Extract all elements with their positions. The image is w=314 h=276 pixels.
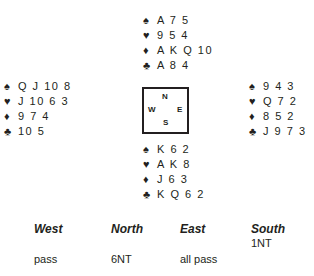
south-diamonds: ♦J 6 3 [143,172,205,187]
heart-icon: ♥ [249,94,263,109]
south-spades: ♠K 6 2 [143,142,205,157]
auction-bid-north-2: 6NT [111,253,132,265]
south-hand: ♠K 6 2 ♥A K 8 ♦J 6 3 ♣K Q 6 2 [143,142,205,202]
north-hearts: ♥9 5 4 [143,28,213,43]
east-hand: ♠9 4 3 ♥Q 7 2 ♦8 5 2 ♣J 9 7 3 [249,79,307,139]
spade-icon: ♠ [143,142,157,157]
south-clubs: ♣K Q 6 2 [143,187,205,202]
compass-west: W [148,106,156,114]
spade-icon: ♠ [4,79,18,94]
spade-icon: ♠ [143,13,157,28]
north-diamonds: ♦A K Q 10 [143,43,213,58]
diamond-icon: ♦ [4,109,18,124]
heart-icon: ♥ [143,28,157,43]
club-icon: ♣ [143,187,157,202]
west-clubs: ♣10 5 [4,124,72,139]
auction-bid-west-2: pass [34,253,57,265]
club-icon: ♣ [4,124,18,139]
diamond-icon: ♦ [249,109,263,124]
south-hearts: ♥A K 8 [143,157,205,172]
diamond-icon: ♦ [143,43,157,58]
diamond-icon: ♦ [143,172,157,187]
auction-header-west: West [34,222,62,236]
club-icon: ♣ [249,124,263,139]
auction-bid-south-1: 1NT [251,237,272,249]
compass-south: S [163,119,168,127]
east-spades: ♠9 4 3 [249,79,307,94]
north-hand: ♠A 7 5 ♥9 5 4 ♦A K Q 10 ♣A 8 4 [143,13,213,73]
auction-header-east: East [180,222,205,236]
heart-icon: ♥ [4,94,18,109]
east-clubs: ♣J 9 7 3 [249,124,307,139]
spade-icon: ♠ [249,79,263,94]
west-hearts: ♥J 10 6 3 [4,94,72,109]
north-spades: ♠A 7 5 [143,13,213,28]
east-diamonds: ♦8 5 2 [249,109,307,124]
club-icon: ♣ [143,58,157,73]
compass-north: N [162,93,168,101]
auction-header-north: North [111,222,143,236]
west-spades: ♠Q J 10 8 [4,79,72,94]
west-hand: ♠Q J 10 8 ♥J 10 6 3 ♦9 7 4 ♣10 5 [4,79,72,139]
north-clubs: ♣A 8 4 [143,58,213,73]
heart-icon: ♥ [143,157,157,172]
compass-east: E [177,106,182,114]
east-hearts: ♥Q 7 2 [249,94,307,109]
west-diamonds: ♦9 7 4 [4,109,72,124]
auction-header-south: South [251,222,285,236]
auction-bid-east-2: all pass [180,253,217,265]
compass-box: N W E S [142,87,189,134]
